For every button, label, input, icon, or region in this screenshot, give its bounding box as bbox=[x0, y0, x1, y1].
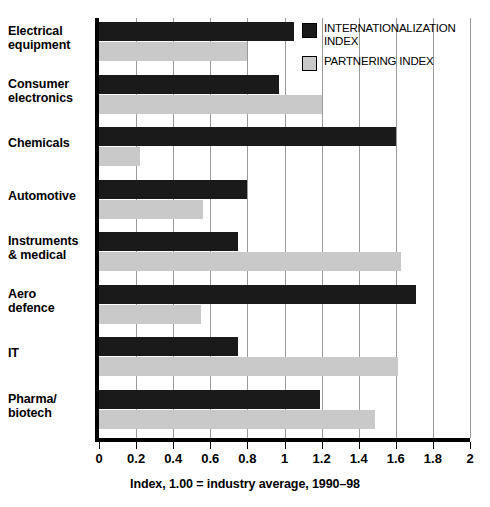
x-axis-tick bbox=[433, 442, 434, 449]
legend-swatch-light bbox=[302, 56, 317, 71]
x-axis-tick-label: 1.2 bbox=[302, 451, 342, 466]
bar bbox=[99, 42, 247, 61]
gridline bbox=[433, 18, 434, 438]
bar bbox=[99, 180, 247, 199]
category-label: Aero defence bbox=[0, 287, 86, 315]
bar bbox=[99, 22, 294, 41]
x-axis-tick bbox=[359, 442, 360, 449]
legend-swatch-dark bbox=[302, 23, 317, 38]
legend-item: INTERNATIONALIZATION INDEX bbox=[302, 22, 488, 48]
bar bbox=[99, 285, 416, 304]
x-axis-tick bbox=[470, 442, 471, 449]
x-axis-tick bbox=[136, 442, 137, 449]
gridline bbox=[470, 18, 471, 438]
bar bbox=[99, 390, 320, 409]
category-label: Consumer electronics bbox=[0, 77, 86, 105]
x-axis-tick bbox=[99, 442, 100, 449]
x-axis-tick-label: 0.8 bbox=[227, 451, 267, 466]
bar bbox=[99, 147, 140, 166]
category-label: Chemicals bbox=[0, 136, 86, 150]
x-axis-tick-label: 0.6 bbox=[190, 451, 230, 466]
x-axis-tick bbox=[247, 442, 248, 449]
x-axis-tick bbox=[173, 442, 174, 449]
category-label: Instruments & medical bbox=[0, 234, 86, 262]
bar bbox=[99, 127, 396, 146]
bar bbox=[99, 95, 322, 114]
legend-label: PARTNERING INDEX bbox=[324, 55, 433, 68]
bar bbox=[99, 75, 279, 94]
x-axis-tick bbox=[396, 442, 397, 449]
chart-legend: INTERNATIONALIZATION INDEXPARTNERING IND… bbox=[302, 22, 488, 78]
x-axis-tick-label: 0.2 bbox=[116, 451, 156, 466]
legend-label: INTERNATIONALIZATION INDEX bbox=[324, 22, 456, 48]
x-axis-line bbox=[95, 438, 470, 442]
x-axis-tick bbox=[285, 442, 286, 449]
x-axis-tick bbox=[210, 442, 211, 449]
bar bbox=[99, 357, 398, 376]
category-axis-labels: Electrical equipmentConsumer electronics… bbox=[0, 18, 94, 438]
x-axis-tick-label: 1.8 bbox=[413, 451, 453, 466]
x-axis-tick-label: 1.6 bbox=[376, 451, 416, 466]
category-label: IT bbox=[0, 346, 86, 360]
bar bbox=[99, 200, 203, 219]
legend-item: PARTNERING INDEX bbox=[302, 55, 488, 71]
category-label: Electrical equipment bbox=[0, 24, 86, 52]
bar bbox=[99, 305, 201, 324]
x-axis-tick-label: 2 bbox=[450, 451, 490, 466]
category-label: Pharma/ biotech bbox=[0, 392, 86, 420]
bar bbox=[99, 337, 238, 356]
x-axis-tick-label: 0 bbox=[79, 451, 119, 466]
plot-area: 00.20.40.60.811.21.41.61.82 bbox=[99, 18, 470, 438]
bar bbox=[99, 232, 238, 251]
bar bbox=[99, 252, 401, 271]
x-axis-tick-label: 1 bbox=[265, 451, 305, 466]
x-axis-tick-label: 0.4 bbox=[153, 451, 193, 466]
x-axis-title: Index, 1.00 = industry average, 1990–98 bbox=[0, 477, 490, 491]
x-axis-tick bbox=[322, 442, 323, 449]
bar bbox=[99, 410, 375, 429]
bar-chart: Electrical equipmentConsumer electronics… bbox=[0, 0, 490, 507]
category-label: Automotive bbox=[0, 189, 86, 203]
x-axis-tick-label: 1.4 bbox=[339, 451, 379, 466]
